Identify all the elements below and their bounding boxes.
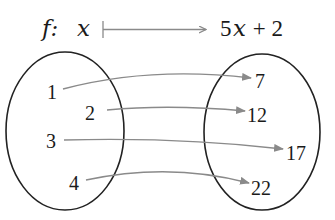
- codomain-set: 7 12 17 22: [204, 54, 320, 210]
- expression-coefficient: 5: [220, 16, 232, 41]
- mapping-arrows: [63, 74, 283, 183]
- function-name: f:: [40, 15, 58, 41]
- codomain-element: 22: [251, 177, 271, 199]
- codomain-element: 7: [255, 70, 265, 92]
- maps-to-arrow-icon: [103, 21, 206, 38]
- function-variable: x: [77, 15, 90, 41]
- mapping-arrow-2-to-12: [107, 107, 245, 111]
- codomain-element: 12: [247, 104, 267, 126]
- mapping-arrow-3-to-17: [64, 139, 283, 149]
- domain-element: 4: [69, 172, 79, 194]
- expression-variable: x: [233, 15, 246, 41]
- domain-ellipse: [6, 52, 124, 210]
- domain-element: 2: [85, 102, 95, 124]
- domain-element: 1: [47, 81, 57, 103]
- mapping-arrow-1-to-7: [63, 74, 251, 89]
- domain-set: 1 2 3 4: [6, 52, 124, 210]
- codomain-element: 17: [286, 142, 306, 164]
- domain-element: 3: [46, 130, 56, 152]
- expression-constant: + 2: [247, 16, 283, 41]
- function-definition: f: x 5 x + 2: [40, 15, 283, 41]
- function-mapping-diagram: 5x + 2 --> f: x 5 x + 2 1 2 3 4 7 12 17 …: [0, 0, 335, 220]
